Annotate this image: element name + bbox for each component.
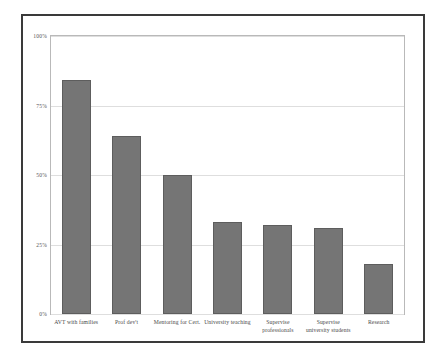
bar-group: Supervise university students [303,36,353,314]
bar [364,264,393,314]
bar [213,222,242,314]
plot-wrapper: 100%75%50%25%0% AVT with familiesProf de… [23,16,423,341]
y-tick-label: 75% [36,103,47,109]
x-tick-label: Supervise professionals [254,319,302,334]
bar [112,136,141,314]
bar [62,80,91,314]
x-tick-label: Research [355,319,403,327]
bar-group: Supervise professionals [253,36,303,314]
bar [314,228,343,314]
bar-group: Research [354,36,404,314]
y-tick-label: 0% [39,311,47,317]
x-tick-label: Prof dev't [103,319,151,327]
x-tick-label: University teaching [203,319,251,327]
bar-group: Mentoring for Cert. [152,36,202,314]
bar-group: Prof dev't [101,36,151,314]
gridline [51,314,404,315]
bar [263,225,292,314]
y-tick-label: 100% [33,33,47,39]
bar-group: University teaching [202,36,252,314]
y-tick-label: 50% [36,172,47,178]
chart-frame: 100%75%50%25%0% AVT with familiesProf de… [21,14,425,343]
x-tick-label: Supervise university students [304,319,352,334]
y-tick-label: 25% [36,242,47,248]
x-tick-label: Mentoring for Cert. [153,319,201,327]
bar [163,175,192,314]
bar-series: AVT with familiesProf dev'tMentoring for… [51,36,404,314]
bar-group: AVT with families [51,36,101,314]
x-tick-label: AVT with families [52,319,100,327]
plot-area: 100%75%50%25%0% AVT with familiesProf de… [50,35,405,315]
